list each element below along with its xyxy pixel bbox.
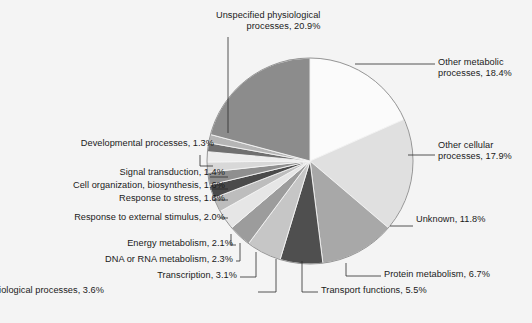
slice-label-other-cellular: Other cellular processes, 17.9% — [438, 140, 512, 163]
slice-label-protein-metabolism: Protein metabolism, 6.7% — [384, 269, 490, 280]
slice-label-dna-rna: DNA or RNA metabolism, 2.3% — [105, 254, 233, 265]
slice-label-unspecified: Unspecified physiological processes, 20.… — [216, 10, 320, 33]
slice-label-other-metabolic: Other metabolic processes, 18.4% — [438, 57, 512, 80]
leader-line-other-biological — [258, 259, 276, 292]
slice-label-unspecified-line1: Unspecified physiological — [216, 10, 320, 20]
slice-label-developmental: Developmental processes, 1.3% — [81, 138, 214, 149]
slice-label-other-biological: Other biological processes, 3.6% — [0, 285, 104, 296]
slice-label-transcription: Transcription, 3.1% — [157, 270, 237, 281]
pie-slice-group — [207, 58, 413, 264]
slice-label-other-cellular-line1: Other cellular — [438, 140, 493, 150]
slice-label-transport-functions: Transport functions, 5.5% — [321, 285, 427, 296]
slice-label-external-stimulus: Response to external stimulus, 2.0% — [74, 212, 225, 223]
slice-label-other-cellular-line2: processes, 17.9% — [438, 151, 512, 162]
slice-label-other-metabolic-line2: processes, 18.4% — [438, 68, 512, 79]
slice-label-signal-transduction: Signal transduction, 1.4% — [120, 167, 225, 178]
leader-line-protein — [346, 263, 381, 276]
slice-label-energy-metabolism: Energy metabolism, 2.1% — [127, 238, 233, 249]
leader-line-transcription — [240, 252, 256, 277]
slice-label-response-stress: Response to stress, 1.6% — [119, 193, 225, 204]
pie-chart-figure: Unspecified physiological processes, 20.… — [0, 0, 532, 323]
slice-label-unknown: Unknown, 11.8% — [416, 214, 485, 225]
leader-line-dna-rna — [236, 243, 240, 261]
slice-label-other-metabolic-line1: Other metabolic — [438, 57, 504, 67]
slice-label-unspecified-line2: processes, 20.9% — [216, 21, 320, 32]
slice-label-cell-organization: Cell organization, biosynthesis, 1.6% — [73, 180, 225, 191]
leader-line-transport — [302, 261, 318, 292]
